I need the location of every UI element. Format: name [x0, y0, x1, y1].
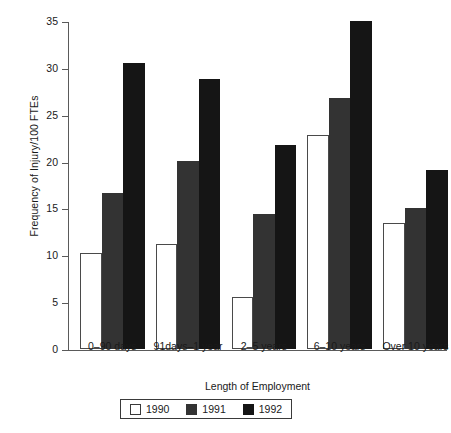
y-tick-label: 10 — [46, 249, 58, 261]
plot-area: 05101520253035 — [68, 22, 447, 350]
legend-label: 1990 — [146, 403, 169, 415]
bar-1992-5 — [426, 170, 448, 349]
bar-1990-2 — [156, 244, 178, 349]
legend-swatch-1991 — [186, 404, 197, 415]
y-tick-label: 35 — [46, 15, 58, 27]
bar-1991-2 — [177, 161, 199, 349]
bar-group — [383, 21, 448, 349]
y-axis-line — [68, 22, 69, 351]
y-tick: 25 — [22, 116, 68, 117]
bar-group — [156, 21, 221, 349]
y-tick: 5 — [22, 303, 68, 304]
bar-1990-5 — [383, 223, 405, 350]
bar-1992-3 — [275, 145, 297, 349]
bar-group — [307, 21, 372, 349]
y-tick: 15 — [22, 209, 68, 210]
y-tick-mark — [62, 69, 68, 70]
y-tick-label: 30 — [46, 62, 58, 74]
bar-1990-4 — [307, 135, 329, 349]
legend-item-1990: 1990 — [130, 403, 169, 415]
y-tick-mark — [62, 163, 68, 164]
bar-group — [232, 21, 297, 349]
legend-swatch-1990 — [130, 404, 141, 415]
legend-label: 1991 — [202, 403, 225, 415]
x-axis-title: Length of Employment — [68, 380, 447, 392]
bar-chart-figure: Frequency of Injury/100 FTEs 05101520253… — [0, 0, 451, 433]
bar-1991-1 — [102, 193, 124, 349]
bar-1991-5 — [405, 208, 427, 350]
legend-item-1992: 1992 — [243, 403, 282, 415]
y-tick-label: 5 — [52, 296, 58, 308]
y-tick-mark — [62, 303, 68, 304]
y-tick-mark — [62, 209, 68, 210]
y-tick-mark — [62, 256, 68, 257]
legend-item-1991: 1991 — [186, 403, 225, 415]
y-tick-label: 20 — [46, 156, 58, 168]
x-tick-label: Over 10 years — [355, 340, 451, 352]
y-tick: 10 — [22, 256, 68, 257]
bar-1992-1 — [123, 63, 145, 349]
y-tick: 30 — [22, 69, 68, 70]
y-tick: 20 — [22, 163, 68, 164]
bar-1991-3 — [253, 214, 275, 349]
y-tick-mark — [62, 22, 68, 23]
bar-1990-1 — [80, 253, 102, 349]
bar-group — [80, 21, 145, 349]
bar-1992-4 — [350, 21, 372, 349]
y-tick: 35 — [22, 22, 68, 23]
y-axis-title: Frequency of Injury/100 FTEs — [28, 46, 40, 286]
legend-label: 1992 — [259, 403, 282, 415]
chart-legend: 199019911992 — [120, 399, 292, 419]
legend-swatch-1992 — [243, 404, 254, 415]
bar-1991-4 — [329, 98, 351, 349]
bar-1992-2 — [199, 79, 221, 349]
y-tick-mark — [62, 116, 68, 117]
y-tick-label: 15 — [46, 202, 58, 214]
y-tick-label: 25 — [46, 109, 58, 121]
